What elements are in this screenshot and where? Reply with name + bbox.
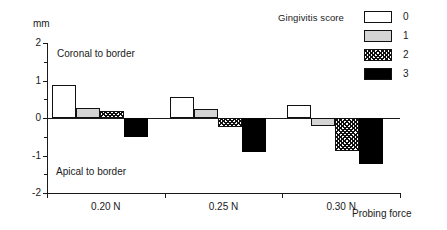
y-tick-minor bbox=[44, 99, 47, 100]
plot-area: 210-1-2 0.20 N0.25 N0.30 N Coronal to bo… bbox=[47, 43, 400, 193]
y-tick-major bbox=[43, 156, 48, 157]
y-tick-minor bbox=[44, 137, 47, 138]
bar-020N-score-2 bbox=[100, 111, 124, 119]
y-tick-major bbox=[43, 81, 48, 82]
annotation-coronal: Coronal to border bbox=[57, 48, 135, 59]
legend-title: Gingivitis score bbox=[278, 12, 344, 23]
y-tick-major bbox=[43, 118, 48, 119]
bar-025N-score-2 bbox=[218, 118, 242, 127]
bar-030N-score-0 bbox=[287, 105, 311, 118]
x-tick bbox=[400, 193, 401, 198]
x-group-label: 0.25 N bbox=[209, 201, 238, 212]
bar-030N-score-2 bbox=[335, 118, 359, 151]
y-tick-major bbox=[43, 43, 48, 44]
y-tick-label: 2 bbox=[35, 38, 41, 48]
x-group-label: 0.20 N bbox=[91, 201, 120, 212]
legend-label-score-2: 2 bbox=[403, 49, 409, 60]
legend-label-score-1: 1 bbox=[403, 30, 409, 41]
bar-025N-score-0 bbox=[170, 97, 194, 118]
y-tick-label: -2 bbox=[32, 188, 41, 198]
y-tick-minor bbox=[44, 62, 47, 63]
legend-label-score-3: 3 bbox=[403, 68, 409, 79]
bar-020N-score-1 bbox=[76, 108, 100, 119]
bar-030N-score-3 bbox=[359, 118, 383, 164]
legend-label-score-0: 0 bbox=[403, 11, 409, 22]
bar-025N-score-3 bbox=[242, 118, 266, 152]
y-tick-label: -1 bbox=[32, 151, 41, 161]
y-tick-label: 0 bbox=[35, 113, 41, 123]
bar-025N-score-1 bbox=[194, 109, 218, 118]
bar-020N-score-0 bbox=[52, 85, 76, 118]
legend-item-score-1: 1 bbox=[364, 27, 409, 44]
legend-swatch-gray-icon bbox=[364, 30, 392, 42]
x-axis-title: Probing force bbox=[352, 208, 411, 219]
bar-020N-score-3 bbox=[124, 118, 148, 137]
chart-root: Gingivitis score 0 1 2 3 mm 21 bbox=[0, 0, 447, 230]
x-tick bbox=[165, 193, 166, 198]
y-tick-label: 1 bbox=[35, 76, 41, 86]
bar-030N-score-1 bbox=[311, 118, 335, 126]
annotation-apical: Apical to border bbox=[56, 166, 126, 177]
legend-swatch-white-icon bbox=[364, 11, 392, 23]
x-tick bbox=[282, 193, 283, 198]
y-axis-unit-label: mm bbox=[33, 18, 50, 29]
x-axis-line bbox=[47, 193, 400, 194]
legend-item-score-0: 0 bbox=[364, 8, 409, 25]
y-tick-minor bbox=[44, 174, 47, 175]
x-tick bbox=[47, 193, 48, 198]
